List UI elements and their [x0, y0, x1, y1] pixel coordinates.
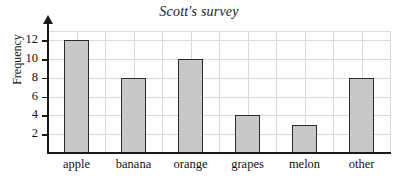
y-axis-tick-mark — [42, 59, 48, 61]
y-axis-tick-mark — [42, 134, 48, 136]
y-axis-tick-mark — [42, 40, 48, 42]
y-axis-tick-mark — [42, 115, 48, 117]
y-axis-tick-label: 6 — [14, 90, 38, 103]
y-axis-tick-label: 8 — [14, 71, 38, 84]
x-axis-label-melon: melon — [276, 157, 333, 172]
y-axis-tick-label: 10 — [14, 52, 38, 65]
x-axis-label-apple: apple — [48, 157, 105, 172]
y-axis-tick-mark — [42, 78, 48, 80]
x-axis-label-grapes: grapes — [219, 157, 276, 172]
y-axis-tick-label: 12 — [14, 33, 38, 46]
y-axis-tick-label: 4 — [14, 108, 38, 121]
x-axis-label-banana: banana — [105, 157, 162, 172]
bar-chart: Scott's survey Frequency 24681012 appleb… — [0, 0, 398, 186]
x-axis-label-other: other — [333, 157, 390, 172]
x-axis-category-labels: applebananaorangegrapesmelonother — [48, 157, 390, 181]
x-axis-label-orange: orange — [162, 157, 219, 172]
y-axis-tick-label: 2 — [14, 127, 38, 140]
y-axis-tick-mark — [42, 97, 48, 99]
